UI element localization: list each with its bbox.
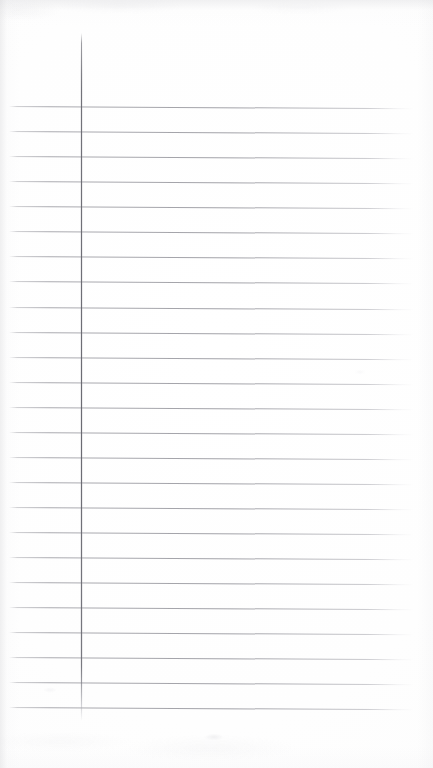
vertical-margin-line [81, 33, 82, 721]
scanned-page [0, 0, 433, 768]
ruled-line [9, 206, 414, 209]
ruled-line [9, 482, 414, 485]
ruled-line [9, 582, 414, 585]
ruled-line [9, 357, 414, 360]
ruled-line [9, 106, 414, 109]
ruled-line [9, 682, 414, 685]
ruled-line [9, 131, 414, 134]
ruled-line [9, 307, 414, 310]
ruled-line [9, 707, 414, 710]
ruled-line [9, 256, 414, 259]
ruled-line [9, 632, 414, 635]
ruled-line [9, 507, 414, 510]
ruled-line [9, 407, 414, 410]
ruled-line [9, 332, 414, 335]
ruled-line [9, 181, 414, 184]
ruled-line [9, 457, 414, 460]
ruled-line [9, 156, 414, 159]
ruled-line [9, 657, 414, 660]
ruled-line [9, 607, 414, 610]
ruled-line [9, 532, 414, 535]
ruled-line [9, 432, 414, 435]
horizontal-ruling-layer [0, 0, 433, 768]
ruled-line [9, 382, 414, 385]
ruled-line [9, 557, 414, 560]
ruled-line [9, 231, 414, 234]
ruled-line [9, 281, 414, 284]
